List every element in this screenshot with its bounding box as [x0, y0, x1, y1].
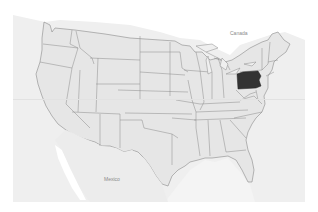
tile-seam	[13, 99, 305, 100]
label-mexico: Mexico	[104, 176, 120, 182]
us-states-map[interactable]	[13, 15, 305, 202]
map-canvas[interactable]	[13, 15, 305, 202]
label-canada: Canada	[230, 30, 248, 36]
state-pennsylvania[interactable]	[237, 71, 261, 89]
